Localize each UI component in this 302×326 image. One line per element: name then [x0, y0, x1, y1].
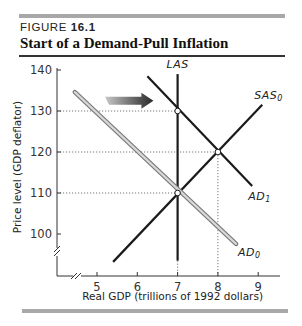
y-tick-label: 110	[30, 186, 52, 200]
curve-sas0-label-subscript: 0	[277, 94, 283, 103]
curve-sas0	[113, 105, 262, 262]
y-tick-label: 100	[30, 227, 52, 241]
guide-lines	[57, 111, 218, 276]
y-axis-title: Price level (GDP deflator)	[11, 101, 23, 233]
curve-sas0-label: SAS0	[254, 89, 283, 103]
y-tick-label: 140	[30, 63, 52, 77]
curve-ad1-label: AD1	[247, 190, 271, 204]
y-tick-label: 130	[30, 104, 52, 118]
las-ad1-intersection-point	[175, 108, 181, 114]
initial-equilibrium-point	[175, 190, 181, 196]
new-short-run-equilibrium-point	[215, 149, 221, 155]
curves: LASSAS0AD0AD1	[75, 58, 283, 262]
chart: 10011012013014056789 LASSAS0AD0AD1 Real …	[0, 0, 302, 326]
bottom-rule	[22, 309, 288, 313]
annotations	[105, 93, 153, 109]
curve-ad1-label-subscript: 1	[265, 195, 271, 204]
curve-las-label: LAS	[167, 58, 189, 71]
curve-ad0-inner	[75, 92, 236, 244]
curve-ad0-label: AD0	[237, 246, 261, 260]
y-tick-label: 120	[30, 145, 52, 159]
axes: 10011012013014056789	[30, 63, 280, 294]
labels: Real GDP (trillions of 1992 dollars) Pri…	[11, 101, 263, 302]
x-axis-title: Real GDP (trillions of 1992 dollars)	[82, 290, 263, 302]
curve-ad0-label-subscript: 0	[255, 251, 261, 260]
demand-shift-arrow	[105, 93, 153, 109]
